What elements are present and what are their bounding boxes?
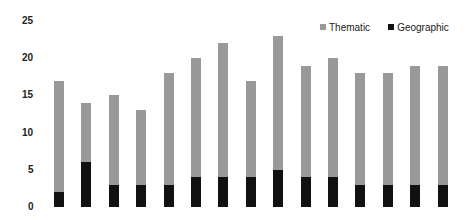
bar (410, 66, 420, 207)
y-tick-label: 0 (28, 202, 48, 212)
y-tick-label: 10 (22, 128, 42, 138)
bar-segment-geographic (164, 185, 174, 207)
bar-segment-geographic (301, 177, 311, 207)
legend-label-thematic: Thematic (329, 22, 370, 33)
y-tick-label: 5 (28, 165, 48, 175)
bar (273, 36, 283, 207)
bar-segment-thematic (410, 66, 420, 185)
bar-segment-geographic (191, 177, 201, 207)
bar-segment-geographic (383, 185, 393, 207)
bar-segment-thematic (109, 95, 119, 184)
legend-label-geographic: Geographic (397, 22, 449, 33)
bar (109, 95, 119, 207)
y-tick-label: 20 (22, 53, 42, 63)
bar-segment-geographic (136, 185, 146, 207)
bar (81, 103, 91, 207)
bar-segment-thematic (81, 103, 91, 163)
bar (164, 73, 174, 207)
bar (246, 81, 256, 207)
bar (191, 58, 201, 207)
bar-segment-thematic (191, 58, 201, 177)
bar (438, 66, 448, 207)
legend-item-geographic: Geographic (388, 22, 449, 33)
bar-segment-geographic (218, 177, 228, 207)
geographic-swatch-icon (388, 24, 394, 30)
bar-segment-thematic (355, 73, 365, 185)
bar-segment-geographic (109, 185, 119, 207)
bar-segment-thematic (164, 73, 174, 185)
bar (328, 58, 338, 207)
bar-segment-thematic (54, 81, 64, 193)
y-tick-label: 15 (22, 90, 42, 100)
bar-segment-thematic (438, 66, 448, 185)
bar-segment-geographic (54, 192, 64, 207)
legend: Thematic Geographic (320, 20, 467, 34)
bar (301, 66, 311, 207)
bar (136, 110, 146, 207)
bar (383, 73, 393, 207)
stacked-bar-chart: 0510152025 Thematic Geographic (0, 0, 473, 224)
y-tick-label: 25 (22, 16, 42, 26)
bar (355, 73, 365, 207)
bar-segment-geographic (438, 185, 448, 207)
bar-segment-geographic (81, 162, 91, 207)
bar-segment-geographic (328, 177, 338, 207)
bar-segment-thematic (246, 81, 256, 178)
bar-segment-geographic (410, 185, 420, 207)
bar-segment-thematic (136, 110, 146, 184)
legend-item-thematic: Thematic (320, 22, 370, 33)
thematic-swatch-icon (320, 24, 326, 30)
bar-segment-thematic (301, 66, 311, 178)
bar-segment-geographic (246, 177, 256, 207)
bar (54, 81, 64, 207)
bar (218, 43, 228, 207)
bar-segment-thematic (218, 43, 228, 177)
bar-segment-thematic (383, 73, 393, 185)
bar-segment-geographic (355, 185, 365, 207)
bar-segment-thematic (273, 36, 283, 170)
bar-segment-geographic (273, 170, 283, 207)
bar-segment-thematic (328, 58, 338, 177)
